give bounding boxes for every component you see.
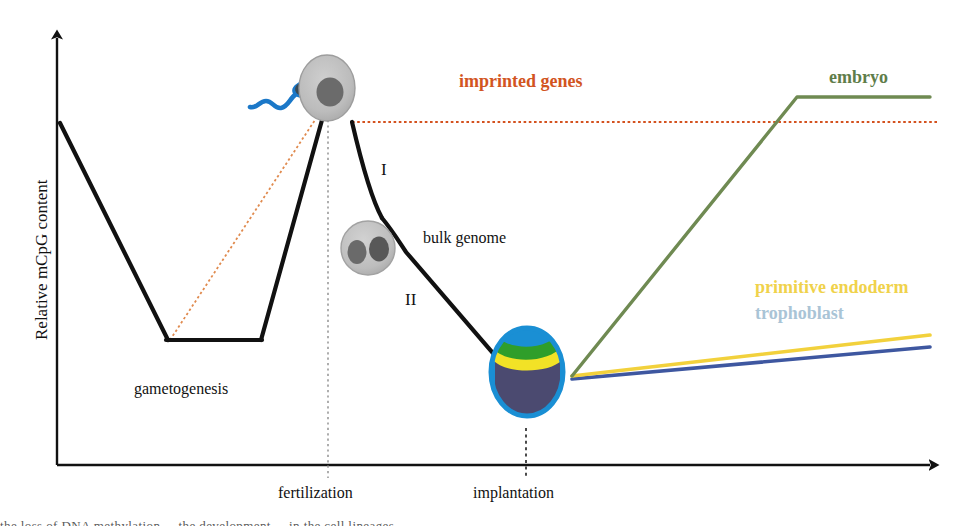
series-label-primitive-endoderm: primitive endoderm [755,277,908,298]
phase-numeral-two: II [405,290,416,310]
bulk-genome-gametogenesis-fall [60,123,168,340]
stage-label-gametogenesis: gametogenesis [134,380,228,398]
curve-label-bulk-genome: bulk genome [423,229,506,247]
blastocyst-icon [491,326,563,420]
series-trophoblast [572,347,930,379]
x-marker-label-fertilization: fertilization [278,484,353,502]
series-label-embryo: embryo [829,67,888,88]
two-cell-embryo-icon [341,221,395,275]
series-label-imprinted-genes: imprinted genes [459,71,583,92]
methylation-reprogramming-figure: Relative mCpG content gametogenesis fert… [0,0,972,530]
axis-group [57,38,930,465]
event-markers [328,120,526,478]
series-embryo [572,97,930,376]
oocyte-icon [299,55,355,121]
x-marker-label-implantation: implantation [473,484,554,502]
phase-numeral-one: I [381,160,387,180]
bulk-genome-phase-one-decline [352,122,382,218]
bulk-genome-gametogenesis-rise [261,120,322,340]
y-axis-title: Relative mCpG content [32,179,52,340]
series-bulk-genome [60,120,516,380]
series-label-trophoblast: trophoblast [755,303,844,324]
series-primitive-endoderm [572,335,930,376]
